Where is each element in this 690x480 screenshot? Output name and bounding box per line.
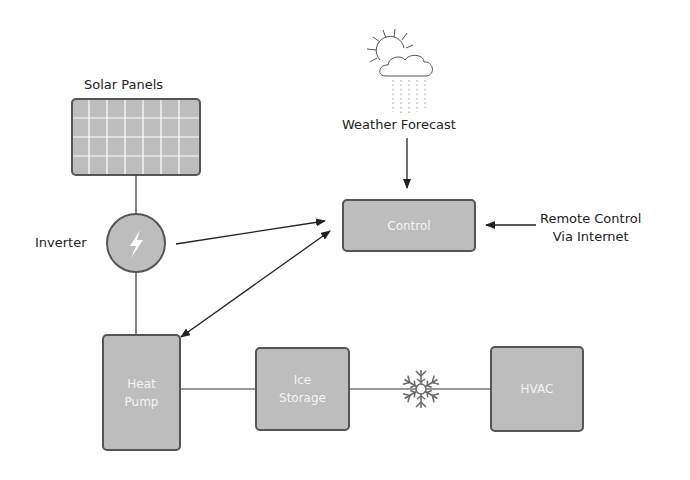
inverter-label: Inverter <box>35 235 87 250</box>
heat-pump-label-line2: Pump <box>125 393 159 411</box>
hvac-label: HVAC <box>521 380 554 398</box>
inverter-icon <box>107 214 165 272</box>
sun-cloud-rain-icon <box>367 29 432 114</box>
ice-storage-node[interactable]: Ice Storage <box>255 347 350 431</box>
solar-panels-label: Solar Panels <box>84 77 163 92</box>
weather-forecast-label: Weather Forecast <box>342 117 456 132</box>
heat-pump-node[interactable]: Heat Pump <box>102 334 181 451</box>
remote-label-line2: Via Internet <box>540 228 641 246</box>
ice-storage-label-line2: Storage <box>279 389 326 407</box>
heatpump-control-bidirectional-arrow <box>181 231 330 337</box>
ice-storage-label-line1: Ice <box>294 371 312 389</box>
solar-panel-icon <box>72 99 200 175</box>
hvac-node[interactable]: HVAC <box>490 346 584 432</box>
control-label: Control <box>387 217 430 235</box>
remote-control-label: Remote Control Via Internet <box>540 210 641 246</box>
heat-pump-label-line1: Heat <box>127 375 155 393</box>
control-node[interactable]: Control <box>342 199 476 252</box>
remote-label-line1: Remote Control <box>540 210 641 228</box>
inverter-to-control-arrow <box>176 221 325 244</box>
